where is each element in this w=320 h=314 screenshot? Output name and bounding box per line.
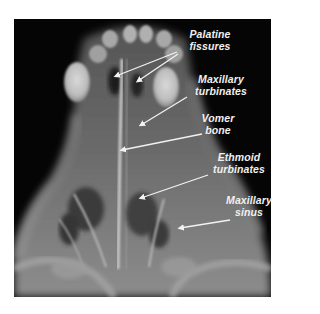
label-vomer-bone: Vomer bone bbox=[196, 112, 240, 136]
label-maxillary-sinus: Maxillary sinus bbox=[224, 194, 274, 218]
label-maxillary-turbinates: Maxillary turbinates bbox=[188, 73, 254, 97]
left-molar bbox=[64, 62, 90, 102]
label-ethmoid-turbinates: Ethmoid turbinates bbox=[208, 151, 270, 175]
right-molar bbox=[153, 67, 179, 107]
label-palatine-fissures: Palatine fissures bbox=[179, 28, 241, 52]
